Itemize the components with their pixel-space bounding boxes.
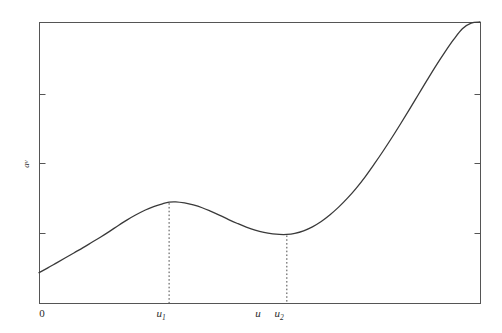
tick-label-base: u	[255, 307, 261, 319]
plot-canvas	[0, 0, 502, 333]
x-axis-tick-label-u2: u2	[274, 307, 283, 322]
tick-label-subscript: 2	[280, 313, 284, 322]
chart-figure: av 0 u1uu2	[0, 0, 502, 333]
x-axis-tick-label-u1: u1	[156, 307, 165, 322]
y-axis-label: av	[7, 150, 45, 178]
y-axis-label-subscript: v	[22, 160, 30, 163]
tick-label-subscript: 1	[162, 313, 166, 322]
y-axis-label-base: a	[21, 163, 31, 168]
x-axis-tick-label-u: u	[255, 307, 261, 319]
x-axis-origin-label: 0	[39, 307, 45, 319]
plot-background	[0, 0, 502, 333]
